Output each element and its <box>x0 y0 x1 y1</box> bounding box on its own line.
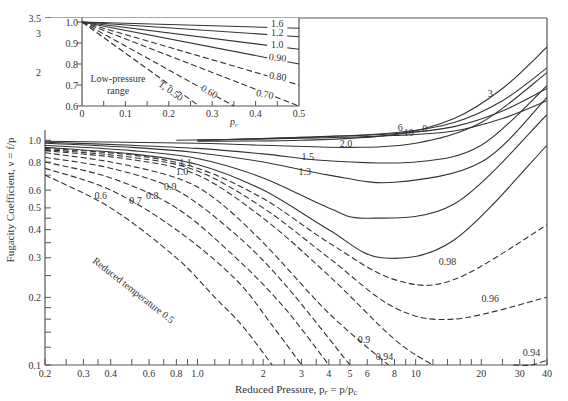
curve-label: 0.96 <box>482 293 500 304</box>
curve-label: 6 <box>398 122 403 133</box>
svg-text:6: 6 <box>365 368 370 379</box>
curve-tr-0.96 <box>45 150 547 320</box>
svg-text:0.1: 0.1 <box>119 108 132 119</box>
svg-text:1.0: 1.0 <box>271 39 284 50</box>
svg-text:0.2: 0.2 <box>29 292 42 303</box>
reduced-temperature-label: Reduced temperature 0.5 <box>91 255 177 325</box>
svg-text:0.2: 0.2 <box>163 108 176 119</box>
curve-label: 1.5 <box>301 151 314 162</box>
curve-label: 10 <box>404 127 414 138</box>
svg-text:0.94: 0.94 <box>523 347 541 358</box>
curve-label: 1.3 <box>298 166 311 177</box>
svg-text:1.0: 1.0 <box>191 368 204 379</box>
curve-label: 0.9 <box>164 181 177 192</box>
svg-text:30: 30 <box>515 368 525 379</box>
svg-text:5: 5 <box>347 368 352 379</box>
curve-tr-1.0 <box>45 145 547 258</box>
curve-label: 1.1 <box>179 157 192 168</box>
svg-text:2: 2 <box>261 368 266 379</box>
svg-text:1.0: 1.0 <box>66 17 79 28</box>
svg-text:0.9: 0.9 <box>358 334 371 345</box>
inset-title: Low-pressure <box>91 73 147 84</box>
curve-label: 0.98 <box>439 256 457 267</box>
svg-text:20: 20 <box>476 368 486 379</box>
curve-label: 0.6 <box>94 190 107 201</box>
inset-plot: 0.60.70.80.91.000.10.20.30.40.5T, 0.500.… <box>42 17 305 131</box>
curve-tr-0.5 <box>45 175 272 365</box>
svg-text:40: 40 <box>542 368 552 379</box>
svg-text:3: 3 <box>36 28 41 39</box>
svg-text:1.0: 1.0 <box>29 135 42 146</box>
curve-label: 0.8 <box>146 190 159 201</box>
curve-tr-0.8 <box>45 157 350 365</box>
svg-text:0.6: 0.6 <box>66 101 79 112</box>
svg-text:0: 0 <box>80 108 85 119</box>
svg-text:1.6: 1.6 <box>271 18 284 29</box>
svg-text:0.8: 0.8 <box>170 368 183 379</box>
svg-text:0.4: 0.4 <box>249 108 262 119</box>
svg-text:0.9: 0.9 <box>66 38 79 49</box>
curve-tr-0.7 <box>45 162 329 365</box>
svg-text:0.3: 0.3 <box>206 108 219 119</box>
svg-text:8: 8 <box>392 368 397 379</box>
svg-text:4: 4 <box>326 368 331 379</box>
curve-tr-0.6 <box>45 168 302 365</box>
x-axis-label: Reduced Pressure, pr = p/pc <box>235 383 357 397</box>
curve-label: 8 <box>422 123 427 134</box>
svg-text:0.8: 0.8 <box>29 157 42 168</box>
curve-label: 0.7 <box>129 195 142 206</box>
curve-label: 3 <box>488 88 493 99</box>
curve-label: 2.0 <box>340 138 353 149</box>
y-axis-label: Fugacity Coefficient, ν = f/p <box>4 137 16 262</box>
svg-text:0.4: 0.4 <box>104 368 117 379</box>
curve-label: 0.94 <box>376 351 394 362</box>
svg-text:0.6: 0.6 <box>29 185 42 196</box>
svg-text:3.5: 3.5 <box>29 13 42 24</box>
svg-text:3: 3 <box>299 368 304 379</box>
svg-text:0.2: 0.2 <box>39 368 52 379</box>
inset-title-2: range <box>107 85 130 96</box>
svg-text:0.4: 0.4 <box>29 224 42 235</box>
svg-text:0.6: 0.6 <box>143 368 156 379</box>
svg-text:0.7: 0.7 <box>66 80 79 91</box>
svg-text:0.3: 0.3 <box>29 252 42 263</box>
svg-text:0.90: 0.90 <box>268 51 287 64</box>
svg-text:2: 2 <box>36 67 41 78</box>
svg-text:0.3: 0.3 <box>77 368 90 379</box>
fugacity-chart: 0.10.20.30.40.50.60.81.0233.50.20.30.40.… <box>0 0 568 401</box>
svg-text:0.5: 0.5 <box>29 202 42 213</box>
svg-text:0.8: 0.8 <box>66 59 79 70</box>
svg-text:0.5: 0.5 <box>293 108 306 119</box>
svg-text:10: 10 <box>411 368 421 379</box>
